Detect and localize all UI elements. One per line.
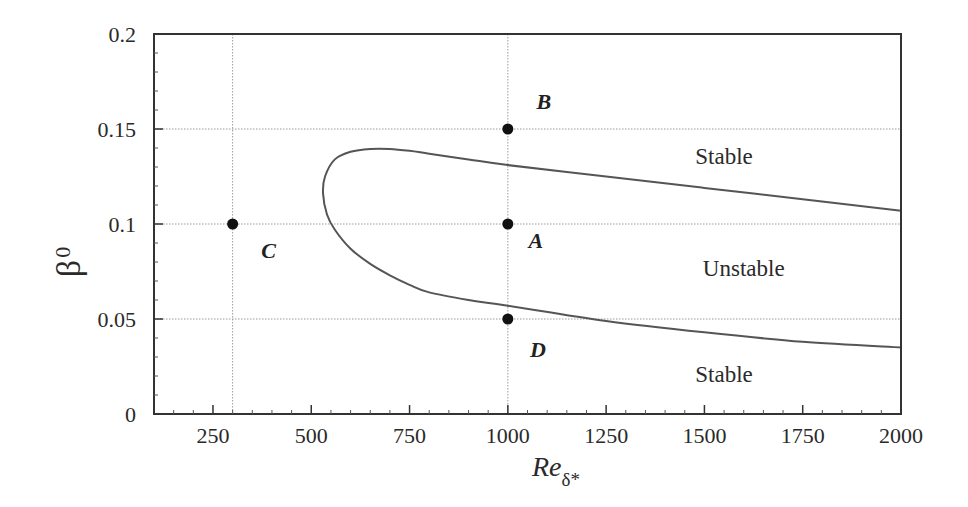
x-tick-label: 1750 <box>781 423 825 448</box>
x-tick-label: 2000 <box>879 423 923 448</box>
x-tick-label: 1500 <box>682 423 726 448</box>
x-axis-ticks: 25050075010001250150017502000 <box>196 405 923 448</box>
region-label-unstable: Unstable <box>703 256 785 281</box>
y-tick-label: 0.1 <box>109 212 137 237</box>
y-axis-title-sub: 0 <box>50 247 75 258</box>
region-label-stable: Stable <box>695 362 753 387</box>
region-label-stable: Stable <box>695 144 753 169</box>
y-tick-label: 0.2 <box>109 22 137 47</box>
point-c-label: C <box>261 238 276 263</box>
x-tick-label: 750 <box>393 423 426 448</box>
neutral-stability-curve <box>323 149 901 348</box>
grid-lines <box>154 34 901 414</box>
minor-ticks <box>154 53 881 414</box>
y-tick-label: 0.15 <box>98 117 137 142</box>
y-axis-title: β0 <box>50 247 87 277</box>
y-tick-label: 0 <box>125 402 136 427</box>
point-c-marker <box>227 219 238 230</box>
stability-chart: 25050075010001250150017502000 00.050.10.… <box>0 0 968 507</box>
point-a-label: A <box>526 228 543 253</box>
series-line <box>323 149 901 348</box>
region-annotations: StableUnstableStable <box>695 144 784 388</box>
x-axis-title-sub: δ* <box>562 469 580 490</box>
point-a-marker <box>502 219 513 230</box>
x-axis-title: Reδ* <box>531 451 580 490</box>
x-axis-title-main: Re <box>531 451 562 482</box>
point-d-label: D <box>529 337 546 362</box>
svg-text:β0: β0 <box>50 247 87 277</box>
y-axis-title-main: β <box>50 260 87 277</box>
y-tick-label: 0.05 <box>98 307 137 332</box>
x-tick-label: 500 <box>295 423 328 448</box>
point-d-marker <box>502 314 513 325</box>
data-points: ABCD <box>227 89 551 362</box>
x-tick-label: 250 <box>196 423 229 448</box>
point-b-marker <box>502 124 513 135</box>
x-tick-label: 1250 <box>584 423 628 448</box>
x-tick-label: 1000 <box>486 423 530 448</box>
point-b-label: B <box>535 89 551 114</box>
